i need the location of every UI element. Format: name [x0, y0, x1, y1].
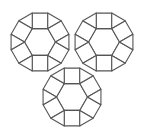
- square-tile-1: [32, 55, 48, 71]
- figure-root: Trefoil arrangement of three rhombitrihe…: [0, 0, 144, 140]
- square-tile-4: [96, 13, 112, 29]
- square-tile-1: [64, 110, 80, 126]
- tiling-diagram: Trefoil arrangement of three rhombitrihe…: [0, 0, 144, 140]
- square-tile-4: [64, 68, 80, 84]
- square-tile-4: [32, 13, 48, 29]
- top-right-rosette: [75, 13, 133, 71]
- bottom-center-rosette: [43, 68, 101, 126]
- top-left-rosette: [11, 13, 69, 71]
- square-tile-1: [96, 55, 112, 71]
